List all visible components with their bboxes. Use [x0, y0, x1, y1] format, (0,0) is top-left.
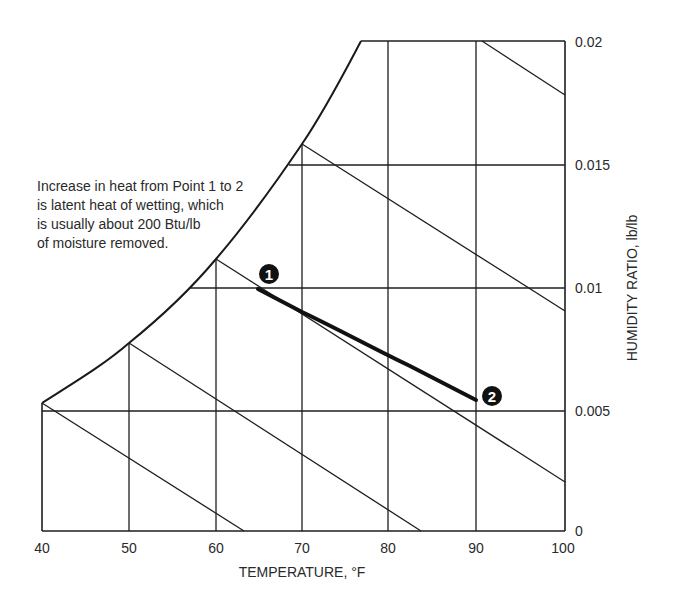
y-tick-label: 0.015 — [575, 157, 610, 173]
wet-bulb-line-upper — [482, 41, 565, 95]
wet-bulb-line-50 — [129, 343, 421, 531]
annotation-line: is latent heat of wetting, which — [37, 196, 243, 215]
y-axis-ticks: 0 0.005 0.01 0.015 0.02 — [575, 34, 610, 539]
wet-bulb-line-40 — [42, 403, 244, 531]
vertical-gridlines — [129, 41, 476, 531]
marker-point-2: 2 — [482, 386, 502, 406]
annotation-line: Increase in heat from Point 1 to 2 — [37, 177, 243, 196]
annotation-line: of moisture removed. — [37, 234, 243, 253]
svg-text:2: 2 — [488, 388, 496, 405]
process-line — [258, 289, 476, 400]
x-tick-label: 60 — [208, 540, 224, 556]
x-tick-label: 80 — [380, 540, 396, 556]
x-tick-label: 70 — [294, 540, 310, 556]
annotation-line: is usually about 200 Btu/lb — [37, 215, 243, 234]
y-tick-label: 0.005 — [575, 403, 610, 419]
svg-text:1: 1 — [265, 266, 273, 283]
annotation-note: Increase in heat from Point 1 to 2 is la… — [37, 177, 243, 253]
y-tick-label: 0.02 — [575, 34, 602, 50]
x-tick-label: 90 — [468, 540, 484, 556]
marker-point-1: 1 — [259, 264, 279, 284]
wet-bulb-lines — [42, 41, 565, 531]
y-axis-title: HUMIDITY RATIO, lb/lb — [624, 215, 640, 362]
chart-frame — [42, 41, 565, 531]
psychrometric-chart: 1 2 40 50 60 70 80 90 100 TEMPERATURE, °… — [0, 0, 673, 600]
x-axis-ticks: 40 50 60 70 80 90 100 — [34, 540, 575, 556]
x-tick-label: 40 — [34, 540, 50, 556]
wet-bulb-line-70 — [302, 144, 565, 311]
y-tick-label: 0.01 — [575, 280, 602, 296]
x-tick-label: 50 — [121, 540, 137, 556]
x-tick-label: 100 — [551, 540, 575, 556]
x-axis-title: TEMPERATURE, °F — [239, 564, 366, 580]
y-tick-label: 0 — [575, 523, 583, 539]
